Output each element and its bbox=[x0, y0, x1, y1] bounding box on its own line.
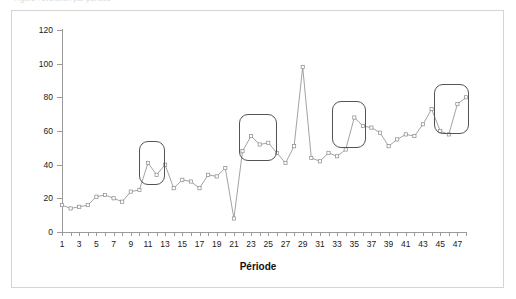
data-point-marker bbox=[318, 160, 321, 163]
data-point-marker bbox=[284, 161, 287, 164]
data-point-marker bbox=[86, 204, 89, 207]
highlight-box-cluster-4 bbox=[434, 84, 469, 135]
highlight-box-cluster-1 bbox=[139, 141, 165, 185]
data-point-marker bbox=[103, 193, 106, 196]
data-point-marker bbox=[396, 138, 399, 141]
data-point-marker bbox=[301, 65, 304, 68]
data-point-marker bbox=[138, 188, 141, 191]
data-point-marker bbox=[413, 135, 416, 138]
data-point-marker bbox=[310, 156, 313, 159]
figure-container: Figure : évolution par période 020406080… bbox=[0, 0, 516, 299]
data-point-marker bbox=[69, 207, 72, 210]
plot-area: 020406080100120 135791113151719212325272… bbox=[0, 0, 516, 299]
data-point-marker bbox=[421, 123, 424, 126]
data-point-marker bbox=[189, 180, 192, 183]
data-point-marker bbox=[112, 197, 115, 200]
data-point-marker bbox=[95, 195, 98, 198]
data-point-marker bbox=[60, 204, 63, 207]
data-point-marker bbox=[327, 151, 330, 154]
data-point-marker bbox=[336, 155, 339, 158]
data-point-marker bbox=[232, 217, 235, 220]
data-point-marker bbox=[404, 133, 407, 136]
x-axis-title: Période bbox=[0, 261, 516, 272]
data-point-marker bbox=[198, 187, 201, 190]
data-point-marker bbox=[121, 200, 124, 203]
data-point-marker bbox=[207, 173, 210, 176]
data-point-marker bbox=[215, 175, 218, 178]
data-point-marker bbox=[172, 187, 175, 190]
data-point-marker bbox=[181, 178, 184, 181]
data-point-marker bbox=[387, 145, 390, 148]
data-point-marker bbox=[370, 126, 373, 129]
data-point-marker bbox=[378, 131, 381, 134]
data-point-marker bbox=[430, 108, 433, 111]
data-point-marker bbox=[293, 145, 296, 148]
highlight-box-cluster-2 bbox=[239, 114, 277, 161]
highlight-box-cluster-3 bbox=[332, 101, 366, 148]
data-point-marker bbox=[344, 148, 347, 151]
data-point-marker bbox=[129, 190, 132, 193]
data-point-marker bbox=[224, 166, 227, 169]
data-point-marker bbox=[78, 205, 81, 208]
